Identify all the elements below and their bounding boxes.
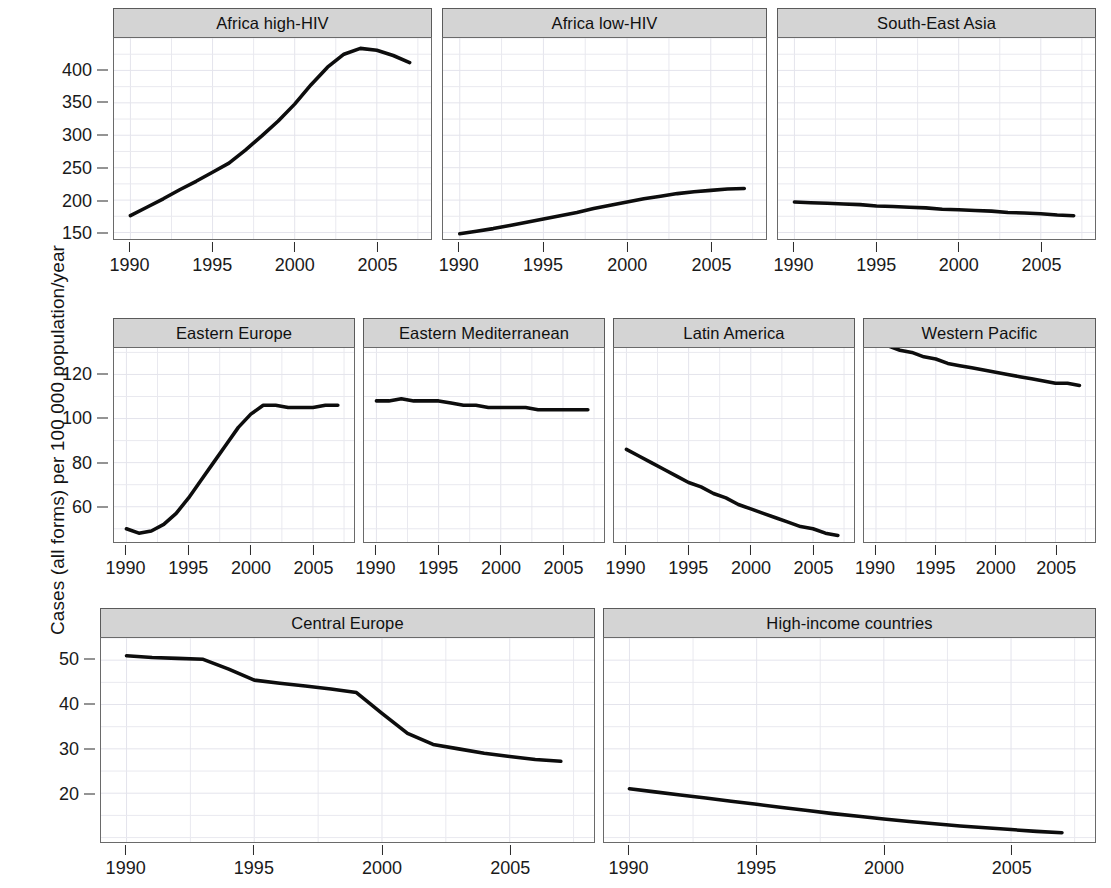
tick-mark <box>125 845 126 855</box>
x-tick-1990: 1990 <box>609 845 649 879</box>
panel-title-text: High-income countries <box>766 614 932 633</box>
y-tick-120: 120 <box>62 363 108 384</box>
series-line <box>876 348 1079 385</box>
x-tick-2005: 2005 <box>794 545 834 579</box>
x-tick-label: 2005 <box>691 255 731 275</box>
y-tick-label: 350 <box>62 92 92 113</box>
x-tick-label: 1995 <box>523 255 563 275</box>
x-tick-2005: 2005 <box>294 545 334 579</box>
x-tick-label: 2000 <box>976 558 1016 578</box>
x-tick-2005: 2005 <box>992 845 1032 879</box>
panel-title-text: Central Europe <box>291 614 403 633</box>
x-tick-2000: 2000 <box>939 242 979 276</box>
x-tick-label: 2005 <box>490 858 530 878</box>
x-tick-label: 1995 <box>168 558 208 578</box>
x-tick-2000: 2000 <box>481 545 521 579</box>
series-line <box>126 405 337 533</box>
x-tick-2000: 2000 <box>362 845 402 879</box>
x-tick-2005: 2005 <box>357 242 397 276</box>
x-tick-label: 2005 <box>992 858 1032 878</box>
y-axis: 6080100120 <box>0 347 108 543</box>
x-tick-label: 2000 <box>362 858 402 878</box>
small-multiples-figure: Cases (all forms) per 100 000 population… <box>0 0 1111 888</box>
x-tick-1995: 1995 <box>523 242 563 276</box>
x-tick-label: 1990 <box>356 558 396 578</box>
x-tick-2000: 2000 <box>607 242 647 276</box>
y-tick-label: 150 <box>62 223 92 244</box>
tick-mark <box>883 845 884 855</box>
tick-mark <box>129 242 130 252</box>
y-tick-150: 150 <box>62 223 108 244</box>
x-tick-1995: 1995 <box>168 545 208 579</box>
panel-title-strip: South-East Asia <box>777 8 1096 38</box>
x-tick-label: 2000 <box>731 558 771 578</box>
x-tick-2000: 2000 <box>731 545 771 579</box>
plot-area <box>113 37 432 240</box>
series-line <box>376 399 587 410</box>
y-tick-label: 50 <box>59 649 79 670</box>
x-tick-label: 2000 <box>864 858 904 878</box>
tick-mark <box>84 793 95 794</box>
x-tick-2005: 2005 <box>1036 545 1076 579</box>
panel-eastern-mediterranean: Eastern Mediterranean <box>363 318 605 543</box>
x-tick-label: 1990 <box>439 255 479 275</box>
x-tick-2000: 2000 <box>231 545 271 579</box>
panel-title-strip: Central Europe <box>100 608 595 638</box>
tick-mark <box>382 845 383 855</box>
series-line <box>794 202 1073 216</box>
tick-mark <box>875 545 876 555</box>
panel-title-text: Eastern Mediterranean <box>399 324 569 343</box>
x-tick-label: 2005 <box>544 558 584 578</box>
tick-mark <box>543 242 544 252</box>
tick-mark <box>84 659 95 660</box>
y-tick-30: 30 <box>59 738 95 759</box>
y-tick-label: 400 <box>62 59 92 80</box>
tick-mark <box>313 545 314 555</box>
x-tick-1995: 1995 <box>915 545 955 579</box>
x-tick-1995: 1995 <box>856 242 896 276</box>
panel-title-text: Africa high-HIV <box>216 14 328 33</box>
x-tick-2000: 2000 <box>275 242 315 276</box>
tick-mark <box>294 242 295 252</box>
plot-area <box>100 637 595 843</box>
tick-mark <box>212 242 213 252</box>
x-tick-2005: 2005 <box>691 242 731 276</box>
x-tick-label: 2000 <box>607 255 647 275</box>
tick-mark <box>750 545 751 555</box>
x-tick-label: 2005 <box>1021 255 1061 275</box>
x-tick-label: 1995 <box>856 255 896 275</box>
x-tick-label: 1990 <box>609 858 649 878</box>
tick-mark <box>97 462 108 463</box>
tick-mark <box>711 242 712 252</box>
tick-mark <box>125 545 126 555</box>
tick-mark <box>628 845 629 855</box>
panel-title-text: Western Pacific <box>922 324 1038 343</box>
panel-title-strip: Western Pacific <box>863 318 1096 348</box>
tick-mark <box>97 167 108 168</box>
y-tick-label: 300 <box>62 125 92 146</box>
x-tick-1990: 1990 <box>106 545 146 579</box>
x-tick-label: 1990 <box>606 558 646 578</box>
tick-mark <box>97 418 108 419</box>
x-tick-1990: 1990 <box>773 242 813 276</box>
x-tick-label: 2005 <box>357 255 397 275</box>
tick-mark <box>627 242 628 252</box>
plot-area <box>442 37 767 240</box>
panel-western-pacific: Western Pacific <box>863 318 1096 543</box>
x-tick-1995: 1995 <box>418 545 458 579</box>
tick-mark <box>935 545 936 555</box>
series-line <box>460 188 745 233</box>
x-tick-2000: 2000 <box>976 545 1016 579</box>
tick-mark <box>625 545 626 555</box>
tick-mark <box>1011 845 1012 855</box>
x-tick-label: 2000 <box>481 558 521 578</box>
tick-mark <box>375 545 376 555</box>
tick-mark <box>188 545 189 555</box>
tick-mark <box>253 845 254 855</box>
y-tick-label: 250 <box>62 157 92 178</box>
panel-title-text: Africa low-HIV <box>552 14 658 33</box>
tick-mark <box>84 704 95 705</box>
tick-mark <box>500 545 501 555</box>
x-tick-1990: 1990 <box>855 545 895 579</box>
x-tick-label: 2000 <box>231 558 271 578</box>
